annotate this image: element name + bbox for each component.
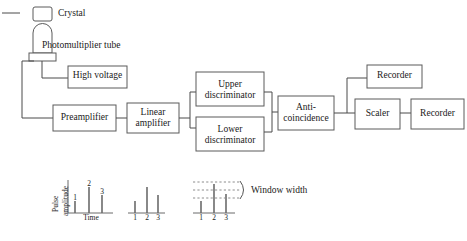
recorder-right-label: Recorder: [411, 108, 464, 118]
lower-disc-to-anticoincidence-wire: [264, 112, 272, 132]
anticoincidence-label-line1: Anti-: [278, 102, 334, 112]
pmt-base-shape: [29, 53, 56, 61]
left-plot-pulse-label-3: 3: [96, 188, 108, 196]
crystal-shape: [33, 7, 52, 21]
crystal-label: Crystal: [58, 8, 85, 18]
left-plot-pulse-label-2: 2: [83, 180, 95, 188]
window-width-brace: [240, 181, 244, 199]
linamp-to-upper-disc-wire: [179, 92, 196, 118]
lower-discriminator-label-line2: discriminator: [196, 135, 264, 145]
linear-amplifier-label-line2: amplifier: [127, 118, 179, 128]
left-plot-pulse-label-1: 1: [69, 194, 81, 202]
pmt-label: Photomultiplier tube: [42, 40, 120, 50]
anticoincidence-label-line2: coincidence: [278, 113, 334, 123]
pulse-amplitude-axis-label-line1: Pulse: [51, 196, 60, 212]
middle-plot-pulse-label-3: 3: [152, 214, 164, 222]
pmt-to-preamp-wire: [22, 61, 53, 118]
upper-discriminator-label-line1: Upper: [196, 79, 264, 89]
upper-disc-to-anticoincidence-wire: [264, 92, 278, 112]
right-plot-pulse-label-3: 3: [220, 214, 232, 222]
window-width-label: Window width: [251, 185, 307, 195]
scaler-label: Scaler: [355, 108, 400, 118]
preamplifier-label: Preamplifier: [53, 112, 116, 122]
lower-discriminator-label-line1: Lower: [196, 124, 264, 134]
right-plot-pulse-label-2: 2: [208, 214, 220, 222]
time-axis-label: Time: [70, 214, 112, 222]
upper-discriminator-label-line2: discriminator: [196, 90, 264, 100]
high-voltage-label: High voltage: [68, 70, 127, 80]
linear-amplifier-label-line1: Linear: [127, 107, 179, 117]
middle-plot-pulse-label-1: 1: [129, 214, 141, 222]
recorder-top-label: Recorder: [367, 70, 422, 80]
diagram-canvas: Crystal Photomultiplier tube High voltag…: [0, 0, 467, 241]
right-plot-pulse-label-1: 1: [195, 214, 207, 222]
